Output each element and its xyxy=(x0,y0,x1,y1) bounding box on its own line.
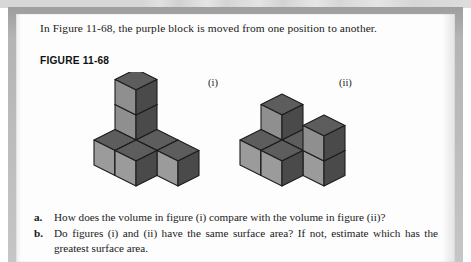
figure-caption: FIGURE 11-68 xyxy=(40,55,109,66)
page-shadow-left xyxy=(16,14,21,262)
scanned-page: In Figure 11-68, the purple block is mov… xyxy=(0,0,471,262)
question-item-a: a. How does the volume in figure (i) com… xyxy=(34,210,438,226)
figure-illustration: (i) (ii) xyxy=(24,72,444,198)
question-list: a. How does the volume in figure (i) com… xyxy=(34,210,438,257)
question-item-b: b. Do figures (i) and (ii) have the same… xyxy=(34,226,438,257)
question-text-b: Do figures (i) and (ii) have the same su… xyxy=(54,226,438,257)
question-text-a: How does the volume in figure (i) compar… xyxy=(54,210,438,226)
question-marker-a: a. xyxy=(34,210,54,226)
cube-stacks-diagram xyxy=(24,72,444,198)
intro-paragraph: In Figure 11-68, the purple block is mov… xyxy=(40,21,436,35)
question-marker-b: b. xyxy=(34,226,54,242)
